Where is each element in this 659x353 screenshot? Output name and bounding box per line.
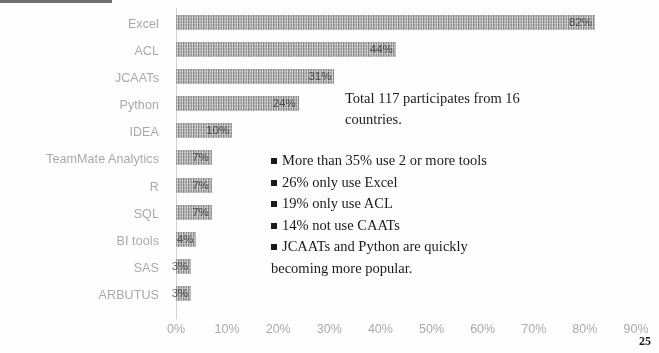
value-axis-ticks: 0%10%20%30%40%50%60%70%80%90%: [176, 322, 636, 342]
summary-line-2: countries.: [345, 109, 645, 130]
value-axis-tick-label: 80%: [572, 322, 597, 336]
bullet-text: 14% not use CAATs: [282, 217, 400, 233]
bullet-square-icon: [271, 201, 277, 207]
bullet-item: JCAATs and Python are quickly: [271, 236, 659, 258]
category-label: BI tools: [0, 228, 168, 255]
bar-row: 3%: [176, 282, 636, 309]
category-label: IDEA: [0, 119, 168, 146]
bar-value-label: 7%: [192, 205, 212, 220]
bar-value-label: 82%: [569, 15, 595, 30]
bullet-square-icon: [271, 223, 277, 229]
category-label: TeamMate Analytics: [0, 146, 168, 173]
value-axis-tick-label: 10%: [215, 322, 240, 336]
summary-annotation: Total 117 participates from 16 countries…: [345, 88, 645, 130]
takeaway-bullet-list: More than 35% use 2 or more tools26% onl…: [271, 150, 659, 279]
bullet-item: More than 35% use 2 or more tools: [271, 150, 659, 172]
category-label: SQL: [0, 201, 168, 228]
bullet-item: 26% only use Excel: [271, 172, 659, 194]
bullet-text: JCAATs and Python are quickly: [282, 238, 468, 254]
value-axis-tick-label: 20%: [266, 322, 291, 336]
value-axis-tick-label: 0%: [167, 322, 185, 336]
category-label: JCAATs: [0, 65, 168, 92]
category-label: SAS: [0, 255, 168, 282]
value-axis-tick-label: 70%: [521, 322, 546, 336]
value-axis-tick-label: 40%: [368, 322, 393, 336]
bullet-text: More than 35% use 2 or more tools: [282, 152, 487, 168]
bar-value-label: 4%: [177, 232, 197, 247]
bullet-text: 26% only use Excel: [282, 174, 398, 190]
bar-value-label: 7%: [192, 150, 212, 165]
page-number: 25: [639, 334, 651, 349]
bullet-continuation-text: becoming more popular.: [271, 258, 659, 280]
bar-value-label: 3%: [172, 259, 192, 274]
summary-line-1: Total 117 participates from 16: [345, 88, 645, 109]
bar-value-label: 31%: [308, 69, 334, 84]
bar-value-label: 7%: [192, 178, 212, 193]
value-axis-tick-label: 60%: [470, 322, 495, 336]
bullet-item: 14% not use CAATs: [271, 215, 659, 237]
bar: [176, 15, 595, 30]
bar-value-label: 3%: [172, 286, 192, 301]
bar-value-label: 24%: [273, 96, 299, 111]
bullet-square-icon: [271, 158, 277, 164]
bullet-square-icon: [271, 244, 277, 250]
category-label: ARBUTUS: [0, 282, 168, 309]
bullet-square-icon: [271, 180, 277, 186]
bar-row: 44%: [176, 38, 636, 65]
category-label: ACL: [0, 38, 168, 65]
category-label: Python: [0, 92, 168, 119]
bar-value-label: 10%: [206, 123, 232, 138]
category-axis-labels: ExcelACLJCAATsPythonIDEATeamMate Analyti…: [0, 11, 168, 309]
bar: [176, 42, 396, 57]
value-axis-tick-label: 50%: [419, 322, 444, 336]
bar-row: 82%: [176, 11, 636, 38]
slide-canvas: ExcelACLJCAATsPythonIDEATeamMate Analyti…: [0, 0, 659, 353]
bullet-item: 19% only use ACL: [271, 193, 659, 215]
bullet-text: 19% only use ACL: [282, 195, 393, 211]
value-axis-tick-label: 30%: [317, 322, 342, 336]
bar-value-label: 44%: [370, 42, 396, 57]
category-label: R: [0, 174, 168, 201]
category-label: Excel: [0, 11, 168, 38]
